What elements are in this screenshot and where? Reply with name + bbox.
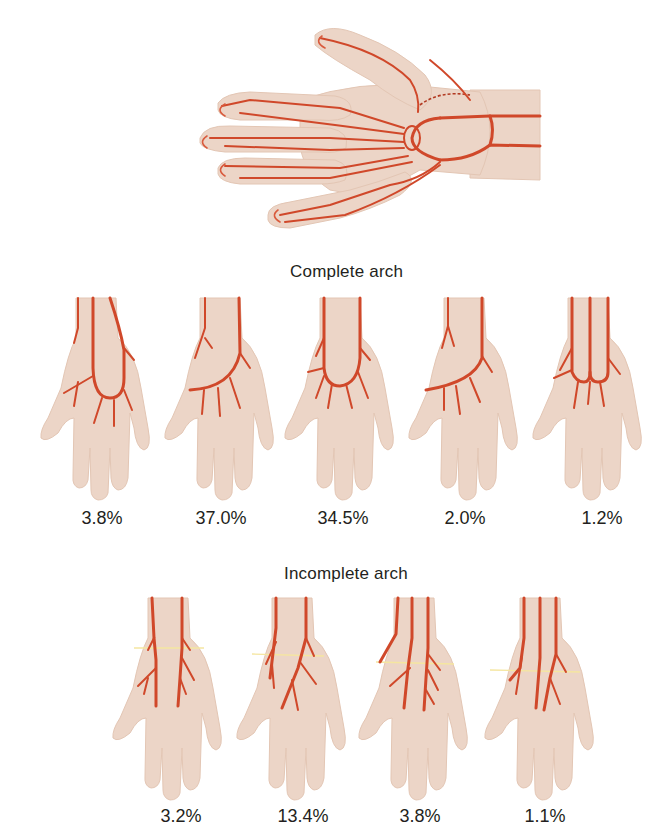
incomplete-arch-hand-4 xyxy=(480,598,600,798)
incomplete-arch-hand-3 xyxy=(354,598,474,798)
complete-arch-hand-3 xyxy=(280,298,400,498)
complete-arch-pct-4: 2.0% xyxy=(415,508,515,529)
complete-arch-pct-2: 37.0% xyxy=(171,508,271,529)
incomplete-arch-pct-4: 1.1% xyxy=(495,806,595,827)
complete-arch-hand-2 xyxy=(160,298,280,498)
complete-arch-hand-1 xyxy=(36,298,156,498)
complete-arch-pct-3: 34.5% xyxy=(293,508,393,529)
incomplete-arch-pct-3: 3.8% xyxy=(370,806,470,827)
incomplete-arch-hand-1 xyxy=(108,598,228,798)
complete-arch-hand-4 xyxy=(404,298,524,498)
incomplete-arch-hand-2 xyxy=(232,598,352,798)
top-hand-illustration xyxy=(0,0,661,240)
incomplete-arch-title: Incomplete arch xyxy=(284,564,408,584)
incomplete-arch-pct-1: 3.2% xyxy=(131,806,231,827)
complete-arch-title: Complete arch xyxy=(290,262,403,282)
incomplete-arch-pct-2: 13.4% xyxy=(253,806,353,827)
complete-arch-pct-5: 1.2% xyxy=(552,508,652,529)
complete-arch-hand-5 xyxy=(528,298,648,498)
complete-arch-pct-1: 3.8% xyxy=(52,508,152,529)
